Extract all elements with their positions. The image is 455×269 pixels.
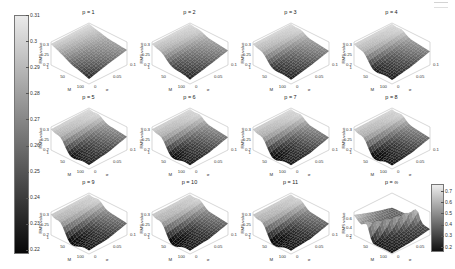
z-axis-label: RMS value (139, 42, 144, 64)
surface-plot: 0.30.250.2RMS value150100M00.050.1σ (341, 17, 442, 95)
m-axis-label: M (269, 87, 273, 92)
figure-canvas: 0.310.30.290.280.270.260.250.240.230.22 … (0, 0, 455, 269)
subplot-cell-7: p = 70.30.250.2RMS value150100M00.050.1σ (240, 93, 341, 180)
sigma-tick-label: 0.1 (231, 62, 238, 67)
m-tick-label: 50 (60, 74, 65, 79)
z-axis-label: RMS value (240, 212, 245, 234)
m-tick-label: 50 (60, 244, 65, 249)
subplot-title: p = 11 (240, 179, 341, 186)
subplot-title: p = 9 (38, 179, 139, 186)
surface-plot: 0.30.250.2RMS value150100M00.050.1σ (38, 17, 139, 95)
subplot-title: p = 4 (341, 9, 442, 16)
colorbar-tick-label: 0.4 (445, 222, 452, 227)
subplot-title: p = 3 (240, 9, 341, 16)
z-tick-label: 0.3 (245, 212, 252, 217)
sigma-tick-label: 0 (397, 169, 400, 174)
subplot-title: p = 1 (38, 9, 139, 16)
subplot-cell-9: p = 90.30.250.2RMS value150100M00.050.1σ (38, 178, 139, 265)
colorbar-tick-mark (26, 198, 29, 199)
m-tick-label: 100 (77, 84, 85, 89)
m-tick-label: 100 (380, 254, 388, 259)
colorbar-tick-label: 0.2 (445, 245, 452, 250)
m-tick-label: 1 (148, 150, 151, 155)
surface-plot: 0.30.250.2RMS value150100M00.050.1σ (240, 187, 341, 265)
surface-plot: 0.30.250.2RMS value150100M00.050.1σ (139, 187, 240, 265)
surface-plot: 0.30.250.2RMS value150100M00.050.1σ (341, 102, 442, 180)
m-tick-label: 50 (363, 159, 368, 164)
sigma-axis-label: σ (106, 87, 109, 92)
z-tick-label: 0.3 (144, 42, 151, 47)
sigma-tick-label: 0.05 (214, 74, 223, 79)
z-tick-label: 0.4 (346, 225, 353, 230)
sigma-tick-label: 0.1 (130, 147, 137, 152)
z-tick-label: 0.3 (346, 42, 353, 47)
m-tick-label: 50 (161, 159, 166, 164)
z-axis-label: RMS value (139, 127, 144, 149)
scan-artifact (434, 2, 448, 8)
m-axis-label: M (168, 257, 172, 262)
z-tick-label: 0.3 (43, 42, 50, 47)
subplot-title: p = 2 (139, 9, 240, 16)
sigma-axis-label: σ (409, 87, 412, 92)
z-axis-label: RMS value (38, 42, 43, 64)
m-tick-label: 1 (249, 65, 252, 70)
sigma-tick-label: 0 (296, 84, 299, 89)
z-axis-label: RMS value (341, 127, 346, 149)
z-tick-label: 0.3 (144, 127, 151, 132)
sigma-tick-label: 0 (94, 169, 97, 174)
z-tick-label: 0.3 (43, 212, 50, 217)
z-axis-label: RMS value (341, 42, 346, 64)
sigma-tick-label: 0.05 (113, 159, 122, 164)
sigma-axis-label: σ (207, 257, 210, 262)
m-tick-label: 50 (262, 244, 267, 249)
sigma-tick-label: 0 (195, 254, 198, 259)
surface-plot: 0.30.250.2RMS value150100M00.050.1σ (139, 17, 240, 95)
subplot-title: p = 10 (139, 179, 240, 186)
sigma-tick-label: 0.05 (315, 244, 324, 249)
m-tick-label: 1 (249, 150, 252, 155)
subplot-title: p = 8 (341, 94, 442, 101)
m-axis-label: M (168, 172, 172, 177)
m-tick-label: 1 (47, 65, 50, 70)
m-tick-label: 50 (262, 74, 267, 79)
sigma-tick-label: 0.1 (433, 62, 440, 67)
sigma-tick-label: 0.1 (332, 147, 339, 152)
m-tick-label: 100 (279, 254, 287, 259)
m-tick-label: 1 (249, 235, 252, 240)
colorbar-tick-mark (441, 236, 444, 237)
colorbar-tick-mark (26, 119, 29, 120)
colorbar-tick-mark (26, 172, 29, 173)
m-axis-label: M (67, 257, 71, 262)
z-axis-label: RMS value (240, 42, 245, 64)
colorbar-tick-mark (441, 191, 444, 192)
surface-plot: 0.60.40.2RMS value150100M00.050.1σ (341, 187, 442, 265)
colorbar-tick-mark (26, 67, 29, 68)
m-tick-label: 50 (262, 159, 267, 164)
sigma-axis-label: σ (308, 257, 311, 262)
m-axis-label: M (370, 87, 374, 92)
sigma-tick-label: 0.05 (416, 244, 425, 249)
subplot-title: p = 6 (139, 94, 240, 101)
m-tick-label: 50 (60, 159, 65, 164)
m-tick-label: 100 (380, 169, 388, 174)
colorbar-tick-label: 0.5 (445, 211, 452, 216)
z-axis-label: RMS value (240, 127, 245, 149)
colorbar-tick-label: 0.7 (445, 189, 452, 194)
subplot-cell-4: p = 40.30.250.2RMS value150100M00.050.1σ (341, 8, 442, 95)
colorbar-tick-mark (26, 250, 29, 251)
subplot-title: p = 5 (38, 94, 139, 101)
m-tick-label: 1 (148, 65, 151, 70)
m-axis-label: M (168, 87, 172, 92)
m-tick-label: 100 (77, 254, 85, 259)
m-tick-label: 100 (178, 254, 186, 259)
sigma-tick-label: 0 (296, 254, 299, 259)
sigma-tick-label: 0.1 (130, 62, 137, 67)
subplot-cell-8: p = 80.30.250.2RMS value150100M00.050.1σ (341, 93, 442, 180)
sigma-axis-label: σ (308, 172, 311, 177)
m-tick-label: 100 (178, 84, 186, 89)
z-axis-label: RMS value (38, 127, 43, 149)
subplot-title: p = ∞ (341, 179, 442, 186)
sigma-tick-label: 0 (397, 254, 400, 259)
colorbar-tick-label: 0.3 (445, 233, 452, 238)
z-tick-label: 0.3 (245, 42, 252, 47)
